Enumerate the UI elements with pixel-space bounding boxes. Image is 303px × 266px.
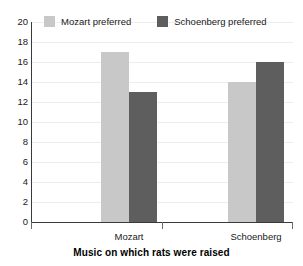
y-axis-tick-label: 12 (2, 97, 28, 107)
y-axis-tick-label: 14 (2, 77, 28, 87)
bar-schoenberg-light (228, 82, 256, 222)
y-axis-tick-label: 18 (2, 37, 28, 47)
bar-mozart-light (101, 52, 129, 222)
x-axis-title: Music on which rats were raised (0, 247, 303, 258)
x-axis-tick (162, 222, 163, 229)
legend-swatch-light-icon (44, 16, 55, 27)
y-axis-line (31, 22, 32, 223)
plot-area (31, 22, 293, 222)
y-axis-tick-label: 6 (2, 157, 28, 167)
bar-schoenberg-dark (256, 62, 284, 222)
legend-label-schoenberg-preferred: Schoenberg preferred (174, 16, 266, 27)
x-axis-tick (31, 222, 32, 229)
y-axis-tick-label: 2 (2, 197, 28, 207)
y-axis-tick-label: 8 (2, 137, 28, 147)
y-axis-tick-label: 20 (2, 17, 28, 27)
bar-chart: Mozart preferred Schoenberg preferred 20… (0, 0, 303, 266)
chart-legend: Mozart preferred Schoenberg preferred (44, 16, 267, 27)
y-axis-tick-labels: 20181614121086420 (0, 0, 28, 266)
bar-mozart-dark (129, 92, 157, 222)
legend-swatch-dark-icon (157, 16, 168, 27)
legend-label-mozart-preferred: Mozart preferred (61, 16, 131, 27)
y-axis-tick-label: 0 (2, 217, 28, 227)
x-axis-label-schoenberg: Schoenberg (206, 231, 303, 242)
y-axis-tick-label: 16 (2, 57, 28, 67)
x-axis-label-mozart: Mozart (79, 231, 179, 242)
legend-entry-mozart-preferred: Mozart preferred (44, 16, 131, 27)
x-axis-tick (292, 222, 293, 229)
y-axis-tick-label: 10 (2, 117, 28, 127)
legend-entry-schoenberg-preferred: Schoenberg preferred (157, 16, 266, 27)
y-axis-tick-label: 4 (2, 177, 28, 187)
bars-layer (31, 22, 293, 222)
